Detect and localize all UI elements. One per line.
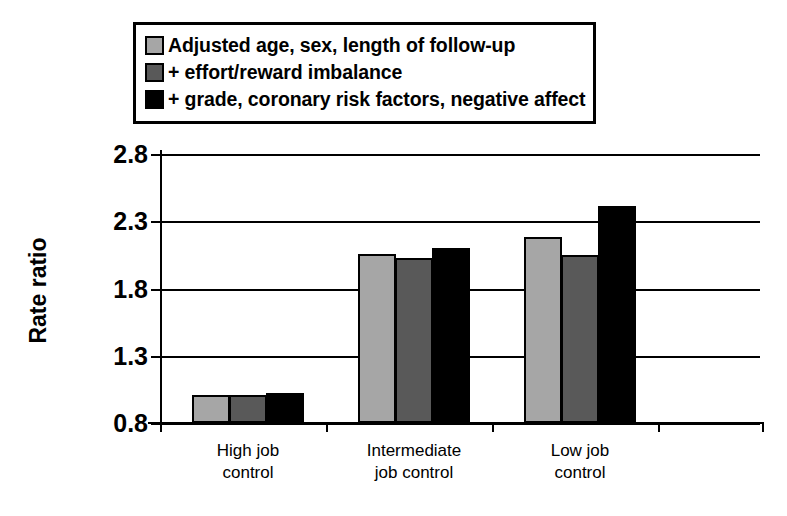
chart-figure: Adjusted age, sex, length of follow-up +… <box>0 0 787 516</box>
bar-group1-series2 <box>229 395 267 423</box>
chart-legend: Adjusted age, sex, length of follow-up +… <box>133 22 596 124</box>
legend-swatch-black <box>145 90 164 109</box>
bar-group3-series3 <box>598 206 636 423</box>
x-category-label-3-line2: control <box>480 462 680 484</box>
x-tick-1 <box>160 423 162 432</box>
legend-item-effort-reward: + effort/reward imbalance <box>145 59 584 86</box>
y-tick-label-1.8: 1.8 <box>113 276 148 301</box>
y-axis-title: Rate ratio <box>13 200 63 380</box>
y-tick-mark-2.3 <box>151 221 160 223</box>
gridline-2.8 <box>160 154 760 156</box>
legend-item-adjusted: Adjusted age, sex, length of follow-up <box>145 32 584 59</box>
legend-label-grade-risk: + grade, coronary risk factors, negative… <box>168 88 585 111</box>
y-tick-label-0.8: 0.8 <box>113 411 148 436</box>
x-category-label-3-line1: Low job <box>480 440 680 462</box>
legend-swatch-dark-gray <box>145 63 164 82</box>
legend-swatch-light-gray <box>145 36 164 55</box>
y-tick-label-2.3: 2.3 <box>113 209 148 234</box>
bar-group1-series3 <box>266 393 304 423</box>
legend-item-grade-risk: + grade, coronary risk factors, negative… <box>145 86 584 113</box>
x-category-label-3: Low jobcontrol <box>480 440 680 484</box>
y-axis-title-text: Rate ratio <box>25 237 52 343</box>
plot-area: 0.81.31.82.32.8 <box>160 154 760 423</box>
bar-group2-series1 <box>358 254 396 423</box>
bar-group2-series2 <box>395 258 433 423</box>
y-tick-mark-1.3 <box>151 356 160 358</box>
y-tick-mark-1.8 <box>151 289 160 291</box>
bar-group1-series1 <box>192 395 230 423</box>
bar-group3-series2 <box>561 255 599 423</box>
x-tick-2 <box>326 423 328 432</box>
bar-group2-series3 <box>432 248 470 423</box>
legend-label-adjusted: Adjusted age, sex, length of follow-up <box>168 34 515 57</box>
legend-label-effort-reward: + effort/reward imbalance <box>168 61 402 84</box>
y-tick-label-2.8: 2.8 <box>113 142 148 167</box>
y-tick-mark-2.8 <box>151 154 160 156</box>
bar-group3-series1 <box>524 237 562 423</box>
x-tick-5 <box>762 423 764 432</box>
x-tick-4 <box>658 423 660 432</box>
x-tick-3 <box>492 423 494 432</box>
x-axis-line <box>148 422 764 424</box>
gridline-2.3 <box>160 221 760 223</box>
y-tick-label-1.3: 1.3 <box>113 343 148 368</box>
